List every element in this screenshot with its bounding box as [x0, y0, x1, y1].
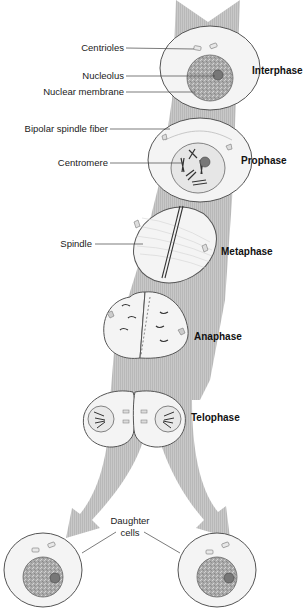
label-centrioles: Centrioles: [81, 42, 124, 53]
phase-label-telophase: Telophase: [191, 412, 240, 424]
daughter-cell-right: [178, 533, 256, 607]
label-nucleolus: Nucleolus: [82, 70, 124, 81]
phase-label-anaphase: Anaphase: [194, 331, 242, 343]
label-spindle: Spindle: [60, 238, 92, 249]
interphase-cell: [160, 26, 260, 110]
label-daughter-cells-line2: cells: [105, 527, 155, 538]
label-bipolar-spindle-fiber: Bipolar spindle fiber: [25, 123, 108, 134]
label-centromere: Centromere: [58, 157, 108, 168]
daughter-cell-left: [4, 533, 82, 607]
phase-label-prophase: Prophase: [241, 155, 287, 167]
phase-label-metaphase: Metaphase: [221, 246, 273, 258]
prophase-cell: [148, 118, 252, 202]
label-nuclear-membrane: Nuclear membrane: [43, 86, 124, 97]
label-daughter-cells-line1: Daughter: [105, 515, 155, 526]
phase-label-interphase: Interphase: [252, 65, 303, 77]
